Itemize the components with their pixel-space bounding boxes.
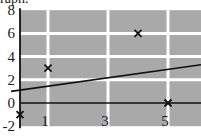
y-tick-label: 6 [8,25,16,41]
x-tick-label: 3 [101,113,109,129]
y-tick-label: 2 [8,72,16,88]
y-tick-label: -2 [3,118,16,134]
scatter-chart: 86420-2135 [0,0,201,140]
y-tick-label: 0 [8,95,16,111]
y-tick-label: 8 [8,2,16,18]
x-tick-label: 5 [161,113,169,129]
x-tick-label: 1 [41,113,49,129]
y-tick-label: 4 [8,49,16,65]
